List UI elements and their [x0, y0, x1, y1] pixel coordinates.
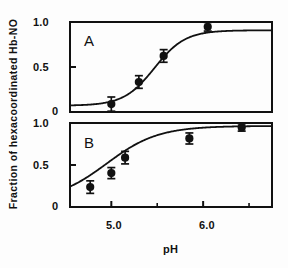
marker-a-0 [107, 100, 115, 108]
panel-b-points [86, 123, 246, 193]
fitted-curve-a [70, 30, 272, 105]
panel-b-curve [70, 126, 272, 186]
data-point-a-3 [204, 22, 212, 31]
data-point-b-3 [185, 133, 193, 144]
data-point-b-4 [238, 123, 246, 131]
marker-b-1 [107, 169, 115, 177]
marker-b-2 [121, 154, 129, 162]
panel-a [70, 22, 272, 112]
marker-b-3 [185, 134, 193, 142]
marker-b-0 [86, 183, 94, 191]
panel-a-frame [70, 22, 272, 112]
panel-a-curve [70, 30, 272, 105]
data-point-b-0 [86, 181, 94, 194]
panel-b-frame [70, 123, 272, 207]
marker-a-2 [160, 52, 168, 60]
data-point-b-1 [107, 168, 115, 179]
data-point-a-1 [135, 76, 143, 89]
figure-container: Fraction of hexacoordinated Hb-NO 1.0 0.… [0, 0, 288, 268]
plot-canvas [0, 0, 288, 268]
marker-a-3 [204, 23, 212, 31]
marker-b-4 [238, 123, 246, 131]
marker-a-1 [135, 78, 143, 86]
data-point-a-0 [107, 97, 115, 111]
panel-b [70, 123, 272, 207]
fitted-curve-b [70, 126, 272, 186]
